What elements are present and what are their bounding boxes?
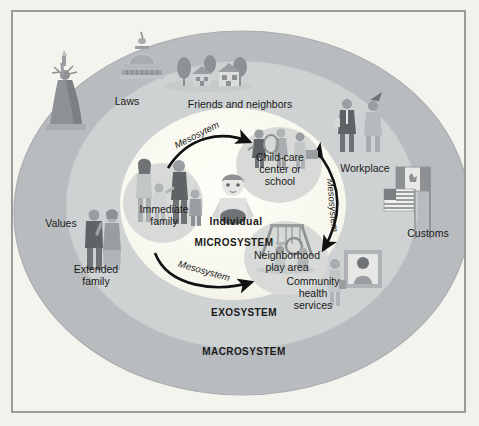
ecological-systems-diagram: Laws Values Customs Friends and neighbor… — [0, 0, 479, 426]
diagram-canvas — [0, 0, 479, 426]
